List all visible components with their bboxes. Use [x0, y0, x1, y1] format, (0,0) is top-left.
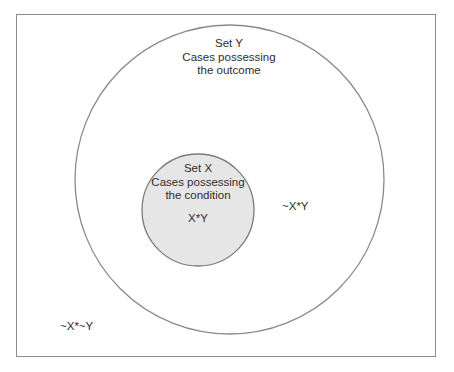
set-y-description-line1: Cases possessing [159, 51, 299, 65]
x-and-y-region-label: X*Y [168, 212, 228, 226]
set-x-title: Set X [138, 162, 258, 176]
set-x-description-line2: the condition [138, 189, 258, 203]
set-y-description-line2: the outcome [159, 64, 299, 78]
not-x-and-not-y-region-label: ~X*~Y [60, 320, 120, 334]
set-y-label: Set Y Cases possessing the outcome [159, 37, 299, 78]
set-x-description-line1: Cases possessing [138, 176, 258, 190]
not-x-and-y-region-label: ~X*Y [282, 200, 332, 214]
set-y-title: Set Y [159, 37, 299, 51]
set-x-label: Set X Cases possessing the condition [138, 162, 258, 203]
